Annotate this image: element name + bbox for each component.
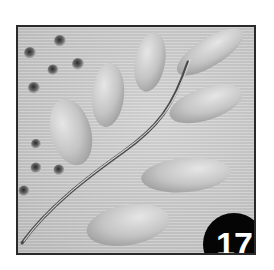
step-number: 17 bbox=[216, 225, 252, 256]
embossed-tile: 17 bbox=[16, 25, 256, 255]
